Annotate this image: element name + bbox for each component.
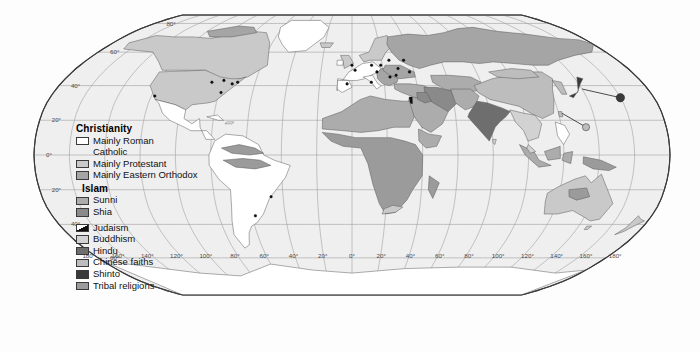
- lon-label: 0°: [349, 252, 355, 259]
- judaism-community-marker-15: [389, 76, 392, 79]
- world-religions-map-figure: 180°160°140°120°100°80°60°40°20°0°20°40°…: [0, 0, 700, 352]
- lon-label: 80°: [464, 252, 474, 259]
- legend-heading-islam: Islam: [82, 184, 198, 194]
- legend-swatch-protestant: [76, 160, 89, 169]
- chinese-faiths-callout-taiwan: [582, 124, 589, 131]
- judaism-community-marker-0: [231, 83, 234, 86]
- legend-label-shia: Shia: [93, 207, 112, 217]
- judaism-community-marker-4: [154, 95, 157, 98]
- legend-swatch-judaism: [76, 224, 89, 233]
- legend-item-eastern-orthodox: Mainly Eastern Orthodox: [76, 170, 198, 182]
- legend-item-buddhism: Buddhism: [76, 234, 198, 246]
- map-legend: Christianity Mainly Roman Catholic Mainl…: [76, 124, 198, 292]
- legend-heading-christianity: Christianity: [76, 124, 198, 134]
- legend-swatch-hindu: [76, 247, 89, 256]
- legend-swatch-chinese-faiths: [76, 259, 89, 268]
- legend-swatch-eastern-orthodox: [76, 171, 89, 180]
- legend-item-shia: Shia: [76, 207, 198, 219]
- lon-label: 40°: [289, 252, 299, 259]
- legend-label-roman-catholic: Mainly Roman: [93, 136, 154, 146]
- lon-label: 100°: [492, 252, 505, 259]
- judaism-community-marker-3: [236, 81, 239, 84]
- judaism-community-marker-10: [370, 64, 373, 67]
- judaism-community-marker-18: [395, 74, 398, 77]
- lat-label: 80°: [166, 20, 176, 27]
- judaism-community-marker-16: [370, 81, 373, 84]
- region-hispaniola: [225, 122, 234, 124]
- lon-label: 40°: [406, 252, 416, 259]
- lon-label: 20°: [377, 252, 387, 259]
- lon-label: 120°: [521, 252, 534, 259]
- lat-label: 20°: [52, 116, 62, 123]
- shinto-callout-japan: [616, 94, 624, 102]
- judaism-community-marker-11: [379, 64, 382, 67]
- judaism-community-marker-9: [351, 64, 354, 67]
- legend-label-hindu: Hindu: [93, 246, 118, 256]
- legend-label-buddhism: Buddhism: [93, 234, 135, 244]
- legend-label-tribal-religions: Tribal religions: [93, 281, 154, 291]
- legend-label-judaism: Judaism: [93, 223, 128, 233]
- legend-label-shinto: Shinto: [93, 269, 120, 279]
- legend-swatch-sunni: [76, 197, 89, 206]
- judaism-community-marker-13: [397, 67, 400, 70]
- legend-swatch-shia: [76, 208, 89, 217]
- legend-swatch-buddhism: [76, 235, 89, 244]
- judaism-community-marker-8: [354, 69, 357, 72]
- legend-label-sunni: Sunni: [93, 195, 117, 205]
- judaism-community-marker-2: [211, 81, 214, 84]
- judaism-community-marker-1: [223, 79, 226, 82]
- judaism-community-marker-14: [402, 59, 405, 62]
- lat-label: 0°: [46, 151, 52, 158]
- legend-label-chinese-faiths: Chinese faiths: [93, 257, 153, 267]
- legend-swatch-tribal-religions: [76, 282, 89, 291]
- judaism-community-marker-6: [254, 215, 257, 218]
- lon-label: 60°: [435, 252, 445, 259]
- lon-label: 140°: [550, 252, 563, 259]
- judaism-community-marker-20: [346, 83, 349, 86]
- lon-label: 100°: [199, 252, 212, 259]
- lon-label: 60°: [260, 252, 270, 259]
- region-ireland-catholic: [337, 60, 343, 65]
- lat-label: 40°: [71, 82, 81, 89]
- judaism-community-marker-19: [408, 71, 411, 74]
- lat-label: 60°: [110, 48, 120, 55]
- judaism-community-marker-5: [220, 91, 223, 94]
- judaism-community-marker-12: [388, 59, 391, 62]
- legend-swatch-roman-catholic: [76, 137, 89, 146]
- lon-label: 160°: [580, 252, 593, 259]
- legend-label-protestant: Mainly Protestant: [93, 159, 166, 169]
- legend-item-shinto: Shinto: [76, 269, 198, 281]
- legend-label-roman-catholic-line2: Catholic: [93, 147, 198, 159]
- lon-label: 80°: [230, 252, 240, 259]
- lon-label: 20°: [318, 252, 328, 259]
- legend-label-eastern-orthodox: Mainly Eastern Orthodox: [93, 170, 198, 180]
- lat-label: 20°: [52, 186, 62, 193]
- judaism-community-marker-17: [376, 71, 379, 74]
- legend-item-tribal-religions: Tribal religions: [76, 281, 198, 293]
- lon-label: 180°: [609, 252, 622, 259]
- legend-swatch-shinto: [76, 270, 89, 279]
- judaism-community-marker-7: [270, 195, 273, 198]
